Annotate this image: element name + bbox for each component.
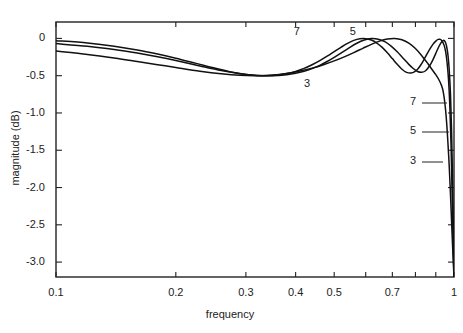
x-tick-label: 0.1: [16, 286, 96, 298]
curve-order-7: [56, 39, 454, 277]
x-tick-label: 1: [414, 286, 463, 298]
curve-inline-label: 3: [304, 77, 310, 89]
y-tick-label: -2.5: [0, 218, 45, 230]
curve-callout-label: 5: [410, 124, 416, 136]
y-tick-label: -1.5: [0, 143, 45, 155]
y-tick-label: -3.0: [0, 255, 45, 267]
y-tick-label: -0.5: [0, 69, 45, 81]
curve-inline-label: 7: [294, 25, 300, 37]
curve-inline-label: 5: [350, 25, 356, 37]
chart-figure: magnitude (dB) frequency 0.10.20.30.40.5…: [0, 0, 463, 333]
curve-order-3: [56, 38, 454, 277]
curve-callout-label: 7: [410, 95, 416, 107]
filter-magnitude-response-plot: [0, 0, 463, 333]
y-tick-label: -1.0: [0, 106, 45, 118]
x-tick-label: 0.2: [136, 286, 216, 298]
curve-order-5: [56, 39, 454, 277]
y-tick-label: 0: [0, 31, 45, 43]
x-axis-title: frequency: [180, 308, 280, 320]
y-tick-label: -2.0: [0, 181, 45, 193]
curve-callout-label: 3: [410, 154, 416, 166]
